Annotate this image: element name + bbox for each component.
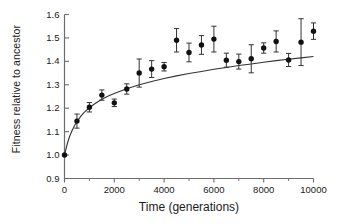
- x-tick-label: 4000: [139, 185, 189, 195]
- data-point: [236, 59, 241, 64]
- y-tick-label: 1.4: [26, 56, 60, 66]
- y-tick-label: 1.0: [26, 150, 60, 160]
- data-point: [261, 45, 266, 50]
- error-bars-layer: [74, 19, 316, 128]
- fit-curve-layer: [65, 56, 314, 155]
- x-tick-label: 10000: [289, 185, 337, 195]
- y-tick-label: 1.1: [26, 127, 60, 137]
- x-tick-label: 6000: [189, 185, 239, 195]
- data-point: [174, 38, 179, 43]
- data-point: [149, 66, 154, 71]
- data-point: [273, 39, 278, 44]
- data-point: [249, 56, 254, 61]
- data-point: [124, 86, 129, 91]
- data-point: [298, 39, 303, 44]
- fit-curve: [65, 56, 314, 155]
- data-point: [286, 57, 291, 62]
- data-point: [112, 100, 117, 105]
- x-tick-label: 0: [40, 185, 90, 195]
- x-tick-label: 2000: [89, 185, 139, 195]
- y-tick-label: 1.5: [26, 33, 60, 43]
- data-point: [62, 152, 67, 157]
- data-point: [211, 36, 216, 41]
- data-point: [99, 92, 104, 97]
- data-point: [87, 105, 92, 110]
- data-point: [137, 70, 142, 75]
- y-tick-label: 1.3: [26, 80, 60, 90]
- x-tick-label: 8000: [239, 185, 289, 195]
- data-point: [224, 57, 229, 62]
- data-point: [311, 28, 316, 33]
- y-tick-label: 1.6: [26, 10, 60, 20]
- data-point: [161, 64, 166, 69]
- data-point: [74, 118, 79, 123]
- data-point: [186, 50, 191, 55]
- data-point: [199, 42, 204, 47]
- y-tick-label: 0.9: [26, 174, 60, 184]
- fitness-trajectory-figure: Fitness relative to ancestor Time (gener…: [0, 0, 337, 224]
- y-tick-label: 1.2: [26, 103, 60, 113]
